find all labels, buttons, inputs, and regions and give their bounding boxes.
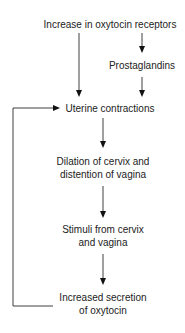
node-label: Uterine contractions bbox=[66, 103, 155, 114]
node-prostaglandins: Prostaglandins bbox=[102, 59, 182, 72]
node-label-line-2: distention of vagina bbox=[48, 168, 158, 181]
node-label-line-2: and vagina bbox=[48, 236, 158, 249]
node-label: Prostaglandins bbox=[109, 60, 175, 71]
node-label-line-1: Stimuli from cervix bbox=[48, 223, 158, 236]
feedback-loop-line bbox=[13, 108, 54, 306]
node-uterine-contractions: Uterine contractions bbox=[60, 102, 160, 115]
node-label-line-1: Dilation of cervix and bbox=[48, 155, 158, 168]
node-dilation-distention: Dilation of cervix and distention of vag… bbox=[48, 155, 158, 181]
node-increased-secretion-oxytocin: Increased secretion of oxytocin bbox=[48, 291, 158, 317]
node-label-line-2: of oxytocin bbox=[48, 304, 158, 317]
node-label-line-1: Increased secretion bbox=[48, 291, 158, 304]
node-stimuli-cervix-vagina: Stimuli from cervix and vagina bbox=[48, 223, 158, 249]
node-label: Increase in oxytocin receptors bbox=[44, 19, 177, 30]
node-oxytocin-receptors: Increase in oxytocin receptors bbox=[40, 18, 180, 31]
